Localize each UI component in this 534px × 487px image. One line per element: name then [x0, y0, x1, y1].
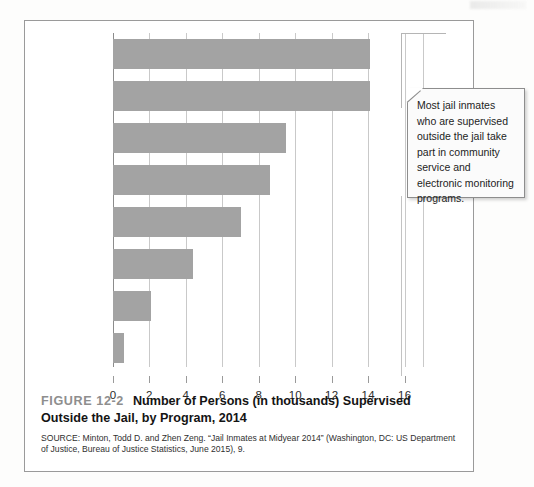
bar-chart-plot-area: CommunityserviceElectronicmonitoringWeek… [25, 21, 475, 389]
x-tick-12 [332, 376, 333, 383]
bar-pretrial [113, 165, 270, 195]
x-tick-4 [186, 376, 187, 383]
callout-leader-line-horizontal [401, 33, 446, 34]
bar-row: Home detention [113, 333, 423, 363]
figure-caption: FIGURE 12-2Number of Persons (in thousan… [41, 393, 459, 427]
bar-home-detention [113, 333, 124, 363]
bar-row: Treatment [113, 291, 423, 321]
bar-community-service [113, 39, 370, 69]
bar-row: Electronicmonitoring [113, 81, 423, 111]
x-tick-2 [149, 376, 150, 383]
callout-leader-line-lower [401, 196, 402, 376]
bar-treatment [113, 291, 151, 321]
x-tick-8 [259, 376, 260, 383]
bar-row: Other work [113, 207, 423, 237]
figure-frame: CommunityserviceElectronicmonitoringWeek… [24, 20, 474, 472]
x-tick-14 [368, 376, 369, 383]
bar-weekend [113, 123, 286, 153]
x-tick-10 [295, 376, 296, 383]
figure-number-label: FIGURE 12-2 [41, 394, 124, 408]
x-tick-16 [405, 376, 406, 383]
callout-box: Most jail inmates who are supervised out… [407, 88, 525, 198]
bar-row: Communityservice [113, 39, 423, 69]
caption-block: FIGURE 12-2Number of Persons (in thousan… [25, 393, 475, 456]
bar-row: Day reporting [113, 249, 423, 279]
x-tick-6 [222, 376, 223, 383]
figure-source-note: SOURCE: Minton, Todd D. and Zhen Zeng. “… [41, 433, 459, 456]
bar-electronic-monitoring [113, 81, 370, 111]
x-tick-0 [113, 376, 114, 383]
scan-artifact [470, 1, 526, 9]
bar-day-reporting [113, 249, 193, 279]
bar-row: Weekend [113, 123, 423, 153]
bar-other-work [113, 207, 241, 237]
callout-text: Most jail inmates who are supervised out… [408, 89, 524, 207]
callout-leader-line-vertical [401, 33, 402, 108]
bar-row: Pretrial [113, 165, 423, 195]
